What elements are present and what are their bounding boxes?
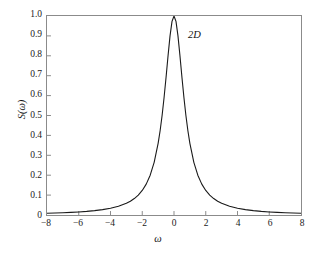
y-axis-tick-label: 0.8	[30, 50, 42, 60]
y-axis-tick-label: 0.3	[30, 151, 42, 161]
x-axis-tick-label: −6	[66, 219, 90, 229]
x-axis-tick-label: −4	[98, 219, 122, 229]
y-axis-tick-label: 0.6	[30, 90, 42, 100]
x-axis-tick-label: 4	[226, 219, 250, 229]
x-axis-tick-label: 6	[258, 219, 282, 229]
y-axis-tick-label: 0.7	[30, 70, 42, 80]
y-axis-title: S(ω)	[16, 80, 27, 140]
y-axis-tick-label: 0.9	[30, 30, 42, 40]
curve-svg	[47, 16, 301, 215]
tick-marks	[47, 36, 269, 215]
x-axis-tick-label: 2	[194, 219, 218, 229]
y-axis-tick-label: 0.1	[30, 191, 42, 201]
figure: 00.10.20.30.40.50.60.70.80.91.0 −8−6−4−2…	[0, 0, 316, 256]
y-axis-tick-label: 0.5	[30, 111, 42, 121]
plot-area	[46, 15, 302, 216]
x-axis-tick-label: −8	[34, 219, 58, 229]
y-axis-tick-label: 0.4	[30, 131, 42, 141]
x-axis-tick-label: −2	[130, 219, 154, 229]
y-axis-tick-label: 1.0	[30, 10, 42, 20]
x-axis-tick-label: 8	[290, 219, 314, 229]
y-axis-tick-label: 0.2	[30, 171, 42, 181]
data-curve-lorentzian	[47, 16, 301, 213]
peak-annotation-label: 2D	[188, 29, 201, 40]
x-axis-title: ω	[0, 233, 316, 244]
x-axis-tick-label: 0	[162, 219, 186, 229]
x-axis-tick-labels: −8−6−4−202468	[0, 219, 316, 233]
